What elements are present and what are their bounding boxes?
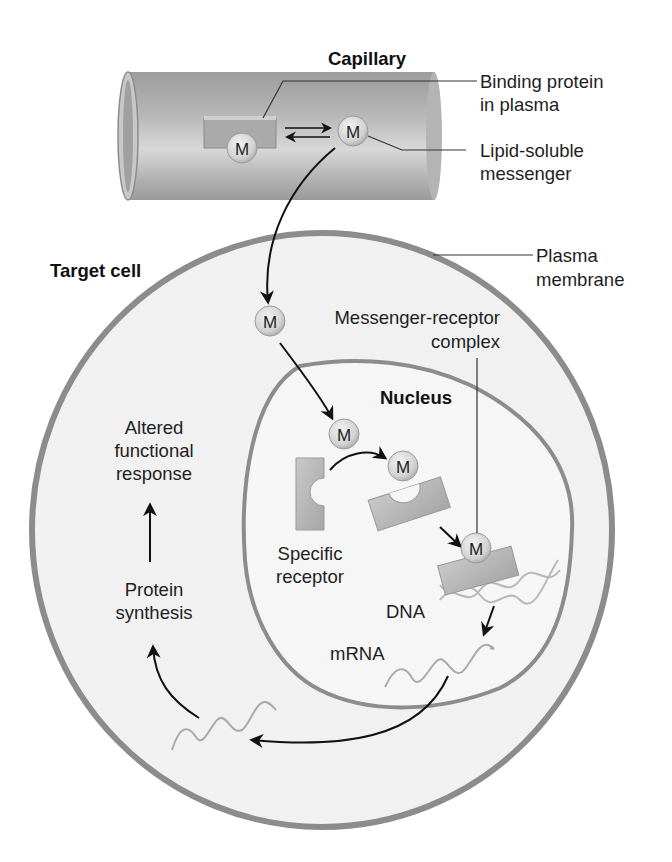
svg-text:M: M	[346, 123, 360, 142]
altered-response-label-1: Altered	[125, 417, 184, 438]
complex-label-2: complex	[431, 331, 501, 352]
binding-protein-label-1: Binding protein	[480, 71, 603, 92]
protein-synthesis-label-1: Protein	[125, 579, 184, 600]
messenger-nucleus: M	[329, 419, 359, 449]
messenger-cytoplasm: M	[255, 306, 285, 336]
specific-receptor-label-2: receptor	[276, 566, 344, 587]
svg-text:M: M	[337, 426, 351, 445]
messenger-binding: M	[388, 451, 418, 481]
messenger-bound: M	[227, 133, 257, 163]
binding-protein-label-2: in plasma	[480, 94, 560, 115]
capillary-label: Capillary	[328, 48, 407, 69]
lipid-messenger-label-2: messenger	[480, 163, 572, 184]
svg-text:M: M	[469, 540, 483, 559]
messenger-complex: M	[461, 533, 491, 563]
target-cell-label: Target cell	[50, 260, 141, 281]
plasma-membrane-label-2: membrane	[536, 269, 624, 290]
capillary-tube	[118, 72, 442, 200]
complex-label-1: Messenger-receptor	[334, 307, 500, 328]
lipid-messenger-label-1: Lipid-soluble	[480, 140, 584, 161]
altered-response-label-3: response	[116, 463, 192, 484]
svg-text:M: M	[263, 313, 277, 332]
svg-text:M: M	[396, 458, 410, 477]
svg-text:M: M	[235, 140, 249, 159]
dna-label: DNA	[386, 601, 426, 622]
specific-receptor-label-1: Specific	[278, 543, 343, 564]
nucleus-label: Nucleus	[380, 387, 452, 408]
protein-synthesis-label-2: synthesis	[115, 602, 192, 623]
diagram-canvas: M M M M M	[0, 0, 672, 862]
altered-response-label-2: functional	[114, 440, 193, 461]
plasma-membrane-label-1: Plasma	[536, 245, 598, 266]
mrna-label: mRNA	[330, 643, 385, 664]
messenger-free: M	[338, 116, 368, 146]
